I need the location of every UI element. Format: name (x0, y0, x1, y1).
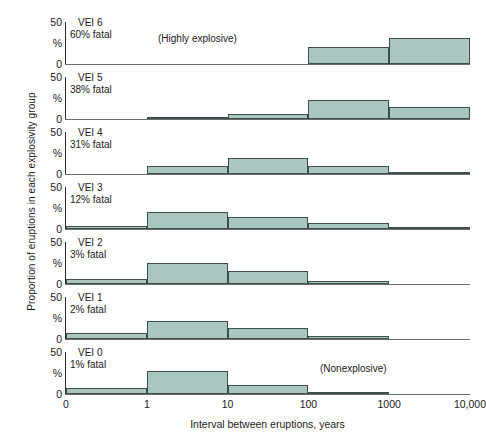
y-tick-label: 0 (44, 279, 62, 289)
y-tick-label: 50 (44, 292, 62, 302)
y-tick-label: % (44, 38, 62, 48)
x-axis-line (65, 229, 470, 230)
y-axis-ticks: 50%0 (44, 187, 62, 229)
x-axis-tick-labels: 0110100100010,000 (0, 398, 480, 412)
y-tick-label: 0 (44, 59, 62, 69)
y-tick-label: % (44, 148, 62, 158)
y-tick-label: 50 (44, 182, 62, 192)
bar (147, 263, 228, 284)
panel-vei-5: 50%0VEI 538% fatal (0, 77, 480, 119)
x-tick-label: 10 (222, 398, 234, 410)
bar (147, 212, 228, 229)
y-tick-label: 50 (44, 127, 62, 137)
y-tick-label: 0 (44, 169, 62, 179)
x-tick-label: 10,000 (454, 398, 486, 410)
y-tick-label: 50 (44, 347, 62, 357)
panel-title: VEI 2 (78, 237, 102, 249)
x-axis-line (65, 284, 470, 285)
panel-note: (Highly explosive) (158, 33, 237, 45)
plot-area (66, 352, 470, 394)
y-axis-ticks: 50%0 (44, 352, 62, 394)
panel-title: VEI 3 (78, 182, 102, 194)
y-tick-label: 50 (44, 72, 62, 82)
plot-area (66, 22, 470, 64)
plot-area (66, 77, 470, 119)
y-tick-label: % (44, 313, 62, 323)
plot-area (66, 242, 470, 284)
bar (389, 38, 470, 64)
bar (228, 271, 309, 284)
panel-title: VEI 6 (78, 17, 102, 29)
x-axis-line (65, 174, 470, 175)
panel-vei-6: 50%0VEI 660% fatal(Highly explosive) (0, 22, 480, 64)
x-tick-label: 0 (63, 398, 69, 410)
bar (228, 217, 309, 229)
panel-vei-1: 50%0VEI 12% fatal (0, 297, 480, 339)
plot-area (66, 297, 470, 339)
panel-fatality-rate: 1% fatal (70, 359, 106, 371)
panel-title: VEI 4 (78, 127, 102, 139)
y-tick-label: 0 (44, 114, 62, 124)
panel-fatality-rate: 31% fatal (70, 139, 112, 151)
panel-vei-2: 50%0VEI 23% fatal (0, 242, 480, 284)
panel-fatality-rate: 3% fatal (70, 249, 106, 261)
y-axis-ticks: 50%0 (44, 297, 62, 339)
x-axis-line (65, 339, 470, 340)
bar (147, 321, 228, 339)
panel-fatality-rate: 12% fatal (70, 194, 112, 206)
y-axis-ticks: 50%0 (44, 22, 62, 64)
y-axis-ticks: 50%0 (44, 132, 62, 174)
panel-fatality-rate: 60% fatal (70, 29, 112, 41)
panel-fatality-rate: 38% fatal (70, 84, 112, 96)
x-tick-label: 1000 (378, 398, 401, 410)
panel-vei-3: 50%0VEI 312% fatal (0, 187, 480, 229)
bar (147, 166, 228, 174)
y-tick-label: % (44, 258, 62, 268)
y-tick-label: 0 (44, 334, 62, 344)
bar (228, 328, 309, 339)
y-axis-ticks: 50%0 (44, 242, 62, 284)
y-axis-ticks: 50%0 (44, 77, 62, 119)
panel-title: VEI 1 (78, 292, 102, 304)
bar (308, 166, 389, 174)
panel-note: (Nonexplosive) (320, 363, 387, 375)
plot-area (66, 132, 470, 174)
x-tick-label: 100 (300, 398, 318, 410)
bar (308, 47, 389, 64)
plot-area (66, 187, 470, 229)
panel-title: VEI 5 (78, 72, 102, 84)
bar (308, 100, 389, 119)
y-tick-label: 50 (44, 17, 62, 27)
x-tick-label: 1 (144, 398, 150, 410)
y-tick-label: % (44, 203, 62, 213)
x-axis-line (65, 64, 470, 65)
x-axis-title: Interval between eruptions, years (65, 418, 470, 430)
y-tick-label: % (44, 368, 62, 378)
y-tick-label: 50 (44, 237, 62, 247)
bar (228, 385, 309, 394)
x-axis-line (65, 119, 470, 120)
bar (147, 371, 228, 394)
bar (389, 107, 470, 119)
y-tick-label: 0 (44, 224, 62, 234)
panel-vei-4: 50%0VEI 431% fatal (0, 132, 480, 174)
panel-title: VEI 0 (78, 347, 102, 359)
panel-fatality-rate: 2% fatal (70, 304, 106, 316)
x-axis-line (65, 394, 470, 395)
panel-vei-0: 50%0VEI 01% fatal(Nonexplosive) (0, 352, 480, 394)
bar (228, 158, 309, 174)
y-tick-label: % (44, 93, 62, 103)
